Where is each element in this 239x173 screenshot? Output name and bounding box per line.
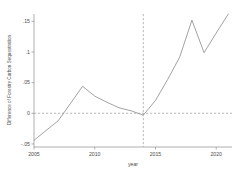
y-tick-label: .05 — [23, 79, 30, 85]
x-tick-label: 2005 — [28, 151, 40, 157]
x-axis-ticks — [34, 147, 216, 150]
y-tick-label: .1 — [26, 49, 30, 55]
x-axis-tick-labels: 2005201020152020 — [28, 151, 222, 157]
y-tick-label: -.05 — [21, 141, 30, 147]
plot-area: -.050.05.1.15 2005201020152020 year Diff… — [0, 0, 239, 173]
y-tick-label: .15 — [23, 18, 30, 24]
x-tick-label: 2010 — [89, 151, 101, 157]
data-series-line — [34, 14, 228, 140]
y-tick-label: 0 — [27, 110, 30, 116]
line-chart-svg: -.050.05.1.15 2005201020152020 year Diff… — [0, 0, 239, 173]
y-axis-title: Difference of Forestry Carbon Sequestrat… — [7, 35, 12, 125]
chart-figure: -.050.05.1.15 2005201020152020 year Diff… — [0, 0, 239, 173]
y-axis-ticks — [32, 21, 35, 144]
y-axis-tick-labels: -.050.05.1.15 — [21, 18, 30, 147]
x-axis-title: year — [128, 161, 138, 167]
x-tick-label: 2015 — [150, 151, 162, 157]
x-tick-label: 2020 — [210, 151, 222, 157]
